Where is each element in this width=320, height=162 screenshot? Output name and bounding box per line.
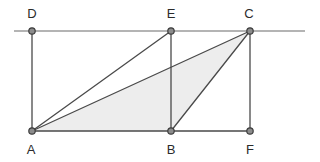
geometry-figure: DECABF xyxy=(0,0,320,162)
vertex-label-d: D xyxy=(27,6,36,21)
vertex-point-d[interactable] xyxy=(29,28,35,34)
vertex-label-b: B xyxy=(167,142,176,157)
vertex-label-a: A xyxy=(27,142,36,157)
vertex-point-c[interactable] xyxy=(247,28,253,34)
vertex-label-c: C xyxy=(244,6,253,21)
vertex-point-a[interactable] xyxy=(29,128,35,134)
vertex-label-e: E xyxy=(167,6,176,21)
geometry-canvas: DECABF xyxy=(0,0,320,162)
vertex-point-e[interactable] xyxy=(168,28,174,34)
vertex-point-f[interactable] xyxy=(247,128,253,134)
vertex-label-f: F xyxy=(246,142,254,157)
vertex-point-b[interactable] xyxy=(168,128,174,134)
